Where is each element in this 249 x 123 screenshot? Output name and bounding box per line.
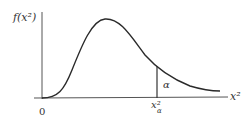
critical-value-subscript: α xyxy=(157,107,162,115)
x-axis xyxy=(34,97,228,98)
chi-square-diagram: f(x²) 0 α x² x² α xyxy=(0,0,249,123)
origin-label: 0 xyxy=(39,106,45,117)
y-axis-label: f(x²) xyxy=(12,11,36,24)
tail-area-label: α xyxy=(163,79,170,90)
x-axis-label: x² xyxy=(230,90,241,103)
density-curve xyxy=(42,19,220,98)
